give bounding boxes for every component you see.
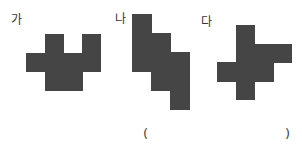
figure-da-label: 다 — [201, 16, 212, 28]
square-cell — [63, 53, 83, 72]
square-cell — [217, 62, 237, 82]
square-cell — [236, 62, 255, 82]
answer-close-paren: ) — [285, 127, 290, 140]
square-cell — [236, 25, 255, 45]
square-cell — [63, 71, 83, 91]
square-cell — [82, 34, 101, 54]
figure-ga-label: 가 — [11, 14, 22, 26]
answer-blank[interactable] — [155, 126, 280, 142]
square-cell — [151, 33, 171, 53]
square-cell — [170, 90, 190, 110]
square-cell — [236, 44, 255, 63]
square-cell — [170, 52, 190, 72]
square-cell — [132, 14, 152, 34]
square-cell — [236, 81, 255, 100]
square-cell — [132, 33, 152, 53]
square-cell — [273, 44, 292, 63]
square-cell — [254, 44, 274, 63]
square-cell — [45, 34, 64, 54]
square-cell — [151, 52, 171, 72]
square-cell — [45, 71, 64, 91]
square-cell — [254, 62, 274, 82]
answer-open-paren: ( — [143, 127, 148, 140]
square-cell — [132, 52, 152, 72]
figure-na-label: 나 — [115, 13, 126, 25]
square-cell — [45, 53, 64, 72]
square-cell — [26, 53, 46, 72]
square-cell — [170, 71, 190, 91]
square-cell — [82, 53, 101, 72]
square-cell — [151, 71, 171, 91]
